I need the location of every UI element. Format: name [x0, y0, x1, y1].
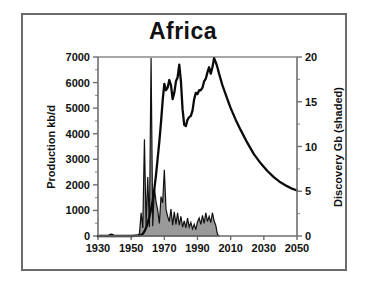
- chart-plot: 01000200030004000500060007000 05101520 1…: [0, 0, 366, 289]
- y-tick-label-left: 4000: [66, 128, 90, 140]
- y-axis-left-labels: 01000200030004000500060007000: [66, 51, 90, 242]
- axis-lines: [98, 57, 297, 236]
- x-tick-label: 1950: [119, 242, 143, 254]
- x-tick-label: 2010: [218, 242, 242, 254]
- x-tick-label: 2050: [285, 242, 309, 254]
- y-tick-label-right: 10: [305, 141, 317, 153]
- x-tick-label: 1930: [86, 242, 110, 254]
- x-axis-labels: 1930195019701990201020302050: [86, 242, 309, 254]
- y-tick-label-left: 3000: [66, 153, 90, 165]
- x-tick-label: 1990: [185, 242, 209, 254]
- production-line-path: [98, 58, 297, 236]
- y-tick-label-left: 0: [84, 230, 90, 242]
- chart-figure: Africa 01000200030004000500060007000 051…: [0, 0, 366, 289]
- y-tick-label-right: 0: [305, 230, 311, 242]
- y-tick-label-right: 15: [305, 96, 317, 108]
- y-axis-right-title: Discovery Gb (shaded): [332, 87, 344, 207]
- y-tick-label-left: 5000: [66, 102, 90, 114]
- y-tick-label-left: 1000: [66, 204, 90, 216]
- y-tick-label-left: 7000: [66, 51, 90, 63]
- y-axis-left-title: Production kb/d: [45, 105, 57, 189]
- y-tick-label-left: 6000: [66, 77, 90, 89]
- x-tick-label: 2030: [252, 242, 276, 254]
- y-tick-label-left: 2000: [66, 179, 90, 191]
- y-tick-label-right: 5: [305, 185, 311, 197]
- y-tick-label-right: 20: [305, 51, 317, 63]
- series-production-line: [98, 58, 297, 236]
- x-tick-label: 1970: [152, 242, 176, 254]
- y-axis-right-labels: 05101520: [305, 51, 317, 242]
